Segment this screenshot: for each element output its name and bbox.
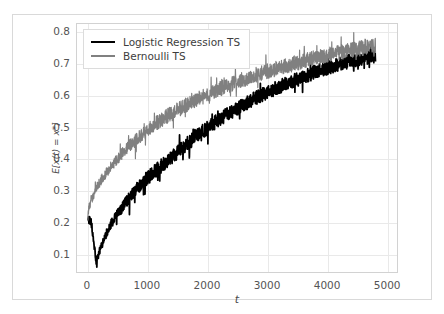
chart-legend: Logistic Regression TS Bernoulli TS bbox=[83, 29, 250, 69]
x-axis-label: t bbox=[235, 293, 239, 306]
y-tick-label: 0.2 bbox=[53, 216, 70, 228]
figure-frame: Logistic Regression TS Bernoulli TS 0.10… bbox=[12, 14, 432, 300]
legend-label: Logistic Regression TS bbox=[123, 36, 240, 48]
legend-label: Bernoulli TS bbox=[123, 50, 186, 62]
plot-area: Logistic Regression TS Bernoulli TS bbox=[76, 23, 398, 273]
x-tick-label: 5000 bbox=[374, 279, 401, 291]
y-tick-label: 0.8 bbox=[53, 25, 70, 37]
y-tick-label: 0.1 bbox=[53, 248, 70, 260]
x-tick-label: 0 bbox=[83, 279, 90, 291]
legend-item: Bernoulli TS bbox=[91, 49, 240, 63]
x-tick-label: 4000 bbox=[314, 279, 341, 291]
legend-swatch-logistic-regression-ts bbox=[91, 41, 115, 43]
legend-swatch-bernoulli-ts bbox=[91, 55, 115, 57]
y-tick-label: 0.6 bbox=[53, 89, 70, 101]
legend-item: Logistic Regression TS bbox=[91, 35, 240, 49]
x-tick-label: 2000 bbox=[194, 279, 221, 291]
plot-wrapper: Logistic Regression TS Bernoulli TS 0.10… bbox=[76, 23, 398, 273]
y-tick-label: 0.3 bbox=[53, 184, 70, 196]
y-axis-label: E[x(t) = x*] bbox=[51, 122, 61, 174]
x-tick-label: 3000 bbox=[254, 279, 281, 291]
x-tick-label: 1000 bbox=[134, 279, 161, 291]
y-tick-label: 0.7 bbox=[53, 57, 70, 69]
